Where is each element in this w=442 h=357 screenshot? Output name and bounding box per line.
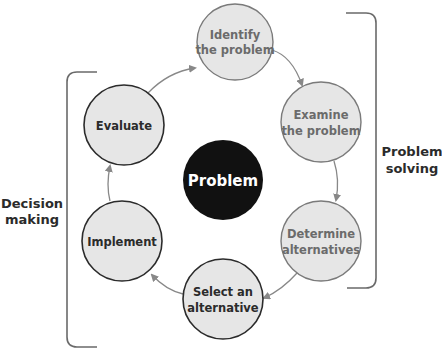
side-label-line2: solving <box>386 161 439 176</box>
node-label-line1: Determine <box>287 227 355 241</box>
arrow-evaluate-to-identify <box>148 68 195 93</box>
node-label-line1: Identify <box>210 28 261 42</box>
node-label: Evaluate <box>96 119 152 133</box>
side-label-line1: Problem <box>382 144 442 159</box>
arrow-examine-to-determine <box>334 161 338 200</box>
node-select-an-alternative: Select an alternative <box>183 259 263 339</box>
node-label-line2: the problem <box>195 43 274 57</box>
node-label-line1: Examine <box>294 108 349 122</box>
node-label-line2: alternatives <box>282 243 360 257</box>
decision-making-label: Decision making <box>1 196 63 227</box>
center-problem-node: Problem <box>183 140 263 220</box>
node-evaluate: Evaluate <box>84 85 164 165</box>
side-label-line1: Decision <box>1 196 63 211</box>
node-identify-the-problem: Identify the problem <box>195 4 274 80</box>
node-label: Implement <box>87 235 157 249</box>
problem-solving-cycle-diagram: Problem Identify the problem Examine the… <box>0 0 442 357</box>
node-implement: Implement <box>82 201 162 281</box>
node-label-line2: alternative <box>187 301 259 315</box>
problem-solving-label: Problem solving <box>382 144 442 176</box>
side-label-line2: making <box>5 212 59 227</box>
node-determine-alternatives: Determine alternatives <box>281 201 361 281</box>
arrow-implement-to-evaluate <box>108 166 110 201</box>
node-label-line1: Select an <box>193 285 253 299</box>
arrow-identify-to-examine <box>272 50 302 85</box>
arrow-determine-to-select <box>264 273 297 298</box>
center-label: Problem <box>188 172 258 190</box>
node-label-line2: the problem <box>281 124 360 138</box>
arrow-select-to-implement <box>152 275 183 294</box>
node-examine-the-problem: Examine the problem <box>281 82 361 162</box>
